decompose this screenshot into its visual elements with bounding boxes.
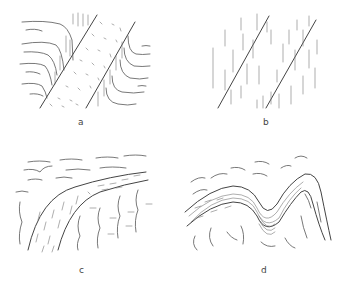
panel-label-a: a xyxy=(78,118,84,127)
panel-label-c: c xyxy=(79,266,84,275)
panel-c-drawing xyxy=(0,142,171,284)
panel-label-b: b xyxy=(263,118,269,127)
panel-b: b xyxy=(171,0,342,142)
panel-d: d xyxy=(171,142,342,284)
panel-a-drawing xyxy=(0,0,171,142)
figure: a b xyxy=(0,0,342,284)
panel-c: c xyxy=(0,142,171,284)
panel-a: a xyxy=(0,0,171,142)
panel-d-drawing xyxy=(171,142,342,284)
panel-b-drawing xyxy=(171,0,342,142)
panel-label-d: d xyxy=(261,266,267,275)
